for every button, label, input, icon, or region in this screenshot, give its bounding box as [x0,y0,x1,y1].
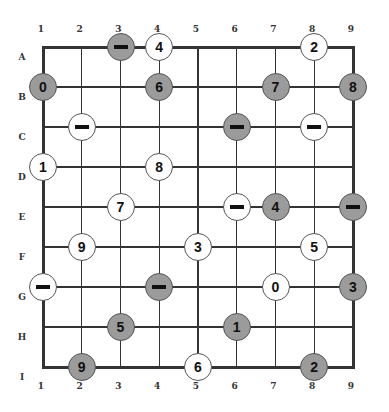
node-value: 6 [194,359,202,375]
dash-icon [230,125,244,129]
node-value: 1 [233,319,241,335]
node-I5[interactable]: 6 [184,353,212,381]
node-C2[interactable] [68,113,96,141]
node-value: 9 [78,239,86,255]
node-E9[interactable] [339,193,367,221]
node-value: 3 [194,239,202,255]
column-label-top-1: 1 [38,24,44,34]
row-label-H: H [18,332,27,342]
column-label-bottom-1: 1 [38,381,44,391]
node-value: 5 [310,239,318,255]
row-label-F: F [19,252,25,262]
column-label-bottom-6: 6 [232,381,238,391]
dash-icon [230,205,244,209]
node-G7[interactable]: 0 [262,273,290,301]
node-D1[interactable]: 1 [29,153,57,181]
column-label-top-2: 2 [77,24,83,34]
node-value: 9 [78,359,86,375]
node-value: 7 [272,79,280,95]
grid-line-row-G [42,286,355,287]
node-G4[interactable] [145,273,173,301]
column-label-bottom-7: 7 [270,381,276,391]
row-label-G: G [18,292,26,302]
row-label-E: E [19,212,26,222]
column-label-bottom-3: 3 [115,381,121,391]
node-C8[interactable] [300,113,328,141]
grid-line-row-B [42,86,355,87]
node-value: 0 [39,79,47,95]
node-value: 4 [155,39,163,55]
node-I2[interactable]: 9 [68,353,96,381]
node-C6[interactable] [223,113,251,141]
row-label-D: D [18,172,26,182]
node-value: 6 [155,79,163,95]
node-I8[interactable]: 2 [300,353,328,381]
node-value: 7 [117,199,125,215]
grid-line-row-H [42,326,355,327]
node-A3[interactable] [107,33,135,61]
node-F2[interactable]: 9 [68,233,96,261]
column-label-top-6: 6 [232,24,238,34]
node-H6[interactable]: 1 [223,313,251,341]
dash-icon [346,205,360,209]
node-F8[interactable]: 5 [300,233,328,261]
dash-icon [307,125,321,129]
node-D4[interactable]: 8 [145,153,173,181]
dash-icon [36,285,50,289]
column-label-bottom-9: 9 [348,381,354,391]
column-label-bottom-4: 4 [154,381,160,391]
node-A4[interactable]: 4 [145,33,173,61]
node-B1[interactable]: 0 [29,73,57,101]
puzzle-board: 112233445566778899ABCDEFGHI4206781874935… [0,0,389,412]
column-label-bottom-8: 8 [309,381,315,391]
node-value: 0 [272,279,280,295]
node-E7[interactable]: 4 [262,193,290,221]
node-E3[interactable]: 7 [107,193,135,221]
row-label-B: B [18,92,26,102]
grid-line-row-D [42,166,355,167]
node-B4[interactable]: 6 [145,73,173,101]
node-H3[interactable]: 5 [107,313,135,341]
node-B7[interactable]: 7 [262,73,290,101]
column-label-top-7: 7 [270,24,276,34]
node-value: 5 [117,319,125,335]
node-A8[interactable]: 2 [300,33,328,61]
node-G1[interactable] [29,273,57,301]
column-label-bottom-5: 5 [193,381,199,391]
grid-line-row-E [42,206,355,207]
node-F5[interactable]: 3 [184,233,212,261]
node-E6[interactable] [223,193,251,221]
node-G9[interactable]: 3 [339,273,367,301]
dash-icon [114,45,128,49]
node-value: 8 [155,159,163,175]
row-label-C: C [18,132,25,142]
node-B9[interactable]: 8 [339,73,367,101]
node-value: 1 [39,159,47,175]
row-label-A: A [19,52,26,62]
node-value: 8 [349,79,357,95]
column-label-top-5: 5 [193,24,199,34]
dash-icon [75,125,89,129]
node-value: 2 [310,39,318,55]
column-label-top-9: 9 [348,24,354,34]
node-value: 4 [272,199,280,215]
row-label-I: I [20,372,24,382]
node-value: 2 [310,359,318,375]
column-label-bottom-2: 2 [77,381,83,391]
dash-icon [152,285,166,289]
node-value: 3 [349,279,357,295]
